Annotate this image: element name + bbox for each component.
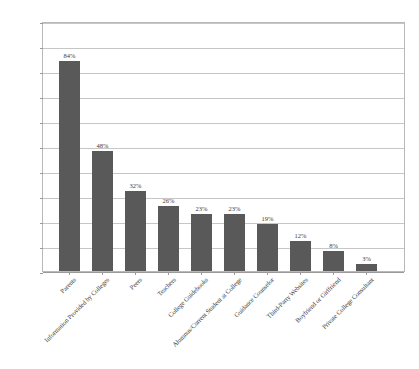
x-tick-mark xyxy=(69,272,70,275)
bar-value-label: 26% xyxy=(152,197,185,205)
bar-value-label: 32% xyxy=(119,182,152,190)
bar[interactable] xyxy=(224,214,245,272)
bar-value-label: 48% xyxy=(86,142,119,150)
x-tick-mark xyxy=(102,272,103,275)
bar-value-label: 19% xyxy=(251,215,284,223)
x-tick-mark xyxy=(366,272,367,275)
x-tick-mark xyxy=(201,272,202,275)
bar[interactable] xyxy=(356,264,377,272)
bar-chart: 84%48%32%26%23%23%19%12%8%3% 0%10%20%30%… xyxy=(0,0,419,369)
bar-slot: 48% xyxy=(86,23,119,271)
y-tick-mark xyxy=(40,198,43,199)
x-tick-label: Parents xyxy=(59,276,78,295)
bar[interactable] xyxy=(125,191,146,271)
bar[interactable] xyxy=(191,214,212,272)
bar-value-label: 84% xyxy=(53,52,86,60)
bar-slot: 23% xyxy=(185,23,218,271)
bar-slot: 3% xyxy=(350,23,383,271)
bar-slot: 19% xyxy=(251,23,284,271)
y-tick-mark xyxy=(40,148,43,149)
y-tick-mark xyxy=(40,223,43,224)
y-tick-mark xyxy=(40,48,43,49)
bar-slot: 32% xyxy=(119,23,152,271)
bar-slot: 8% xyxy=(317,23,350,271)
y-tick-mark xyxy=(40,23,43,24)
x-tick-mark xyxy=(333,272,334,275)
y-tick-mark xyxy=(40,173,43,174)
x-tick-mark xyxy=(135,272,136,275)
x-tick-mark xyxy=(234,272,235,275)
bar-value-label: 3% xyxy=(350,255,383,263)
bar-slot: 84% xyxy=(53,23,86,271)
bar-value-label: 12% xyxy=(284,232,317,240)
x-tick-mark xyxy=(168,272,169,275)
y-tick-mark xyxy=(40,273,43,274)
y-tick-mark xyxy=(40,248,43,249)
x-tick-mark xyxy=(300,272,301,275)
x-tick-mark xyxy=(267,272,268,275)
bar-value-label: 23% xyxy=(218,205,251,213)
y-tick-mark xyxy=(40,98,43,99)
bar[interactable] xyxy=(92,151,113,271)
x-tick-label: Peers xyxy=(129,276,145,292)
bar-slot: 23% xyxy=(218,23,251,271)
bar[interactable] xyxy=(158,206,179,271)
bar-value-label: 8% xyxy=(317,242,350,250)
bar-value-label: 23% xyxy=(185,205,218,213)
bar-slot: 26% xyxy=(152,23,185,271)
y-tick-mark xyxy=(40,123,43,124)
x-tick-label: Teachers xyxy=(155,276,177,298)
x-tick-label: Information Provided by Colleges xyxy=(43,276,111,344)
bar-slot: 12% xyxy=(284,23,317,271)
bar[interactable] xyxy=(257,224,278,272)
plot-area: 84%48%32%26%23%23%19%12%8%3% xyxy=(42,22,405,272)
bar[interactable] xyxy=(290,241,311,271)
bar[interactable] xyxy=(59,61,80,271)
bar[interactable] xyxy=(323,251,344,271)
y-tick-mark xyxy=(40,73,43,74)
gridline xyxy=(43,272,404,273)
